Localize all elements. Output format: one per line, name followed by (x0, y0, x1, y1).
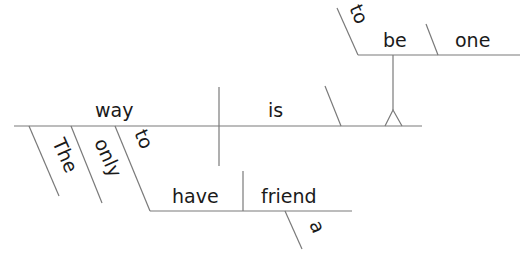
word-one: one (455, 29, 490, 51)
word-have: have (172, 185, 219, 207)
word-to-top: to (345, 1, 373, 27)
complement-slant (325, 86, 341, 126)
pedestal-triangle (385, 110, 402, 126)
word-is: is (268, 99, 283, 121)
word-way: way (95, 99, 133, 121)
word-the: The (48, 134, 83, 176)
word-be: be (383, 29, 407, 51)
word-a: a (305, 217, 330, 237)
sentence-diagram: way is be one have friend to The only to… (0, 0, 531, 259)
a-slant (285, 211, 302, 249)
the-slant (29, 126, 59, 196)
word-friend: friend (261, 185, 317, 207)
be-one-divider (426, 24, 438, 55)
word-to-bottom: to (130, 126, 158, 152)
